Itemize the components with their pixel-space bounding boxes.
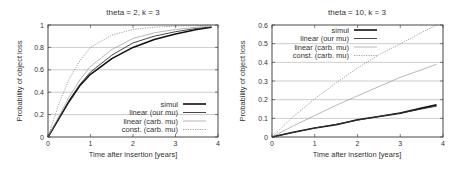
legend-label: const. (carb. mu) (122, 125, 179, 134)
charts-figure: theta = 2, k = 3 Time after insertion [y… (0, 0, 462, 171)
y-tick-label: 0.2 (258, 96, 268, 103)
x-tick-label: 3 (398, 140, 402, 147)
chart-right: theta = 10, k = 3 Time after insertion [… (238, 8, 445, 159)
y-tick-label: 0.6 (258, 22, 268, 29)
y-tick-label: 0 (40, 134, 44, 141)
x-tick-label: 2 (356, 140, 360, 147)
y-tick-label: 0.2 (34, 111, 44, 118)
x-tick-label: 1 (89, 140, 93, 147)
legend: simullinear (our mu)linear (carb. mu)con… (293, 26, 377, 61)
y-tick-label: 0.4 (258, 59, 268, 66)
x-tick-label: 0 (270, 140, 274, 147)
y-tick-label: 0.5 (258, 40, 268, 47)
x-tick-label: 3 (174, 140, 178, 147)
x-tick-label: 2 (131, 140, 135, 147)
y-tick-label: 0.3 (258, 78, 268, 85)
y-axis-label: Probability of object loss (15, 40, 24, 121)
y-axis-label: Probability of object loss (238, 40, 247, 121)
legend-label: const. (carb. mu) (293, 51, 350, 60)
x-tick-label: 0 (46, 140, 50, 147)
x-axis-label: Time after insertion [years] (313, 150, 402, 159)
chart-title: theta = 10, k = 3 (328, 8, 386, 17)
series-line-linear-carb-mu (272, 64, 437, 137)
x-axis-label: Time after insertion [years] (89, 150, 178, 159)
x-tick-label: 4 (216, 140, 220, 147)
y-tick-label: 0.4 (34, 89, 44, 96)
x-tick-label: 1 (313, 140, 317, 147)
x-tick-label: 4 (441, 140, 445, 147)
chart-left: theta = 2, k = 3 Time after insertion [y… (15, 8, 220, 159)
y-tick-label: 0.1 (258, 115, 268, 122)
y-tick-label: 0.8 (34, 44, 44, 51)
legend: simullinear (our mu)linear (carb. mu)con… (122, 100, 206, 135)
chart-title: theta = 2, k = 3 (106, 8, 160, 17)
y-tick-label: 1 (40, 22, 44, 29)
y-tick-label: 0 (264, 134, 268, 141)
y-tick-label: 0.6 (34, 66, 44, 73)
